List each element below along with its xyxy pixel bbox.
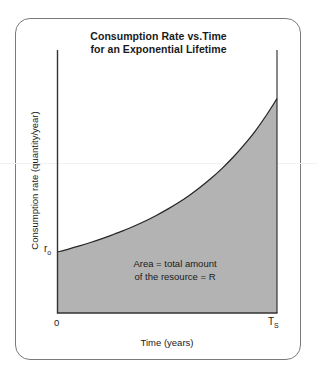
y-tick-label-r0: ro	[44, 243, 51, 254]
area-annotation-line-2: of the resource = R	[100, 271, 250, 284]
x-tick-label-zero: 0	[54, 317, 59, 328]
area-annotation-line-1: Area = total amount	[100, 258, 250, 271]
y-axis-title: Consumption rate (quantity/year)	[29, 81, 40, 281]
x-tick-label-ts: TS	[268, 316, 279, 327]
area-annotation: Area = total amount of the resource = R	[100, 258, 250, 283]
y-tick-r0-subscript: o	[47, 249, 51, 256]
x-tick-ts-subscript: S	[274, 322, 279, 329]
x-axis-title: Time (years)	[57, 337, 277, 348]
